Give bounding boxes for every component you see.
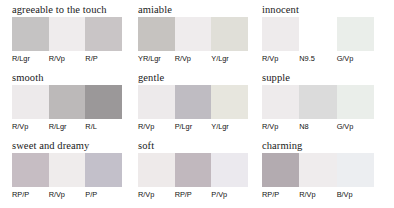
swatch-row [138,85,248,119]
swatch-label-row: R/Vp N9.5 G/Vp [262,54,374,63]
color-swatch [49,153,86,187]
color-swatch [49,17,86,51]
panel-title: gentle [138,72,255,83]
color-swatch [12,85,49,119]
swatch-row [262,153,374,187]
swatch-label: R/L [85,122,122,131]
panel-title: charming [262,140,394,151]
swatch-label: R/P [85,54,122,63]
color-swatch [211,153,248,187]
panel-title: agreeable to the touch [12,4,130,15]
color-swatch [12,153,49,187]
color-swatch [85,153,122,187]
color-swatch [49,85,86,119]
panel-title: smooth [12,72,130,83]
color-swatch [211,85,248,119]
swatch-label-row: R/Lgr R/Vp R/P [12,54,122,63]
panel-innocent: innocent R/Vp N9.5 G/Vp [255,4,394,72]
color-swatch [85,17,122,51]
color-swatch [175,85,212,119]
swatch-label-row: R/Vp N8 G/Vp [262,122,374,131]
panel-sweet-and-dreamy: sweet and dreamy RP/P R/Vp P/P [0,140,130,208]
swatch-label-row: RP/P R/Vp P/P [12,190,122,199]
color-swatch [175,17,212,51]
swatch-label-row: R/Vp P/Lgr Y/Lgr [138,122,248,131]
color-swatch [262,17,299,51]
panel-title: innocent [262,4,394,15]
panel-charming: charming RP/P R/Vp B/Vp [255,140,394,208]
panel-smooth: smooth R/Vp R/Lgr R/L [0,72,130,140]
color-swatch [337,153,374,187]
swatch-label: R/Vp [49,54,86,63]
swatch-label: R/Vp [138,190,175,199]
color-swatch [262,153,299,187]
color-swatch [337,85,374,119]
swatch-label: R/Vp [12,122,49,131]
panel-agreeable-to-the-touch: agreeable to the touch R/Lgr R/Vp R/P [0,4,130,72]
swatch-row [262,17,374,51]
panel-supple: supple R/Vp N8 G/Vp [255,72,394,140]
color-swatch [299,17,336,51]
color-swatch [12,17,49,51]
color-swatch [337,17,374,51]
color-swatch [299,85,336,119]
swatch-label: P/Lgr [175,122,212,131]
color-swatch [138,85,175,119]
swatch-label: Y/Lgr [211,54,248,63]
swatch-label: Y/Lgr [211,122,248,131]
swatch-label: R/Vp [262,122,299,131]
swatch-label: R/Vp [175,54,212,63]
swatch-label: R/Vp [49,190,86,199]
swatch-label: N9.5 [299,54,336,63]
swatch-label: R/Lgr [12,54,49,63]
swatch-row [138,153,248,187]
panel-amiable: amiable YR/Lgr R/Vp Y/Lgr [130,4,255,72]
swatch-row [12,85,122,119]
panel-title: soft [138,140,255,151]
swatch-label: R/Vp [262,54,299,63]
swatch-label: RP/P [175,190,212,199]
panel-title: supple [262,72,394,83]
panel-title: sweet and dreamy [12,140,130,151]
swatch-label: N8 [299,122,336,131]
color-swatch [299,153,336,187]
swatch-row [12,17,122,51]
swatch-label: RP/P [12,190,49,199]
swatch-row [262,85,374,119]
swatch-label-row: YR/Lgr R/Vp Y/Lgr [138,54,248,63]
color-swatch [138,17,175,51]
swatch-label: R/Vp [138,122,175,131]
swatch-label: G/Vp [337,122,374,131]
panel-soft: soft R/Vp RP/P P/Vp [130,140,255,208]
swatch-row [138,17,248,51]
swatch-label: YR/Lgr [138,54,175,63]
panel-grid: agreeable to the touch R/Lgr R/Vp R/P am… [0,4,394,208]
swatch-label: P/P [85,190,122,199]
panel-gentle: gentle R/Vp P/Lgr Y/Lgr [130,72,255,140]
swatch-label: RP/P [262,190,299,199]
swatch-label: B/Vp [337,190,374,199]
color-swatch [138,153,175,187]
color-swatch [175,153,212,187]
swatch-label: P/Vp [211,190,248,199]
color-swatch [262,85,299,119]
swatch-label-row: R/Vp R/Lgr R/L [12,122,122,131]
color-image-scale-figure: agreeable to the touch R/Lgr R/Vp R/P am… [0,0,394,208]
swatch-label: G/Vp [337,54,374,63]
swatch-label-row: RP/P R/Vp B/Vp [262,190,374,199]
color-swatch [85,85,122,119]
color-swatch [211,17,248,51]
panel-title: amiable [138,4,255,15]
swatch-label: R/Vp [299,190,336,199]
swatch-label-row: R/Vp RP/P P/Vp [138,190,248,199]
swatch-label: R/Lgr [49,122,86,131]
swatch-row [12,153,122,187]
